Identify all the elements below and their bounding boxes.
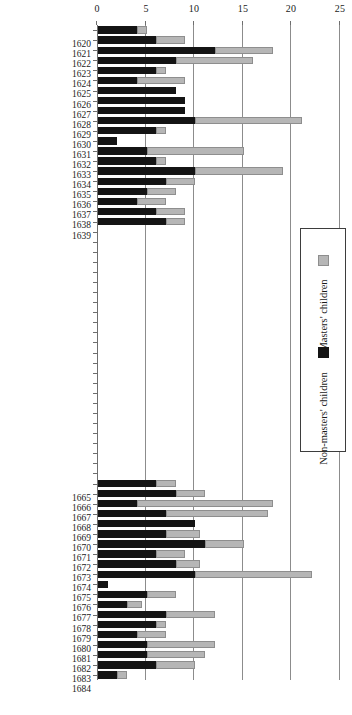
bar-group[interactable]: [98, 611, 341, 618]
bar-segment-non-masters-children[interactable]: [98, 530, 166, 537]
bar-segment-non-masters-children[interactable]: [98, 540, 205, 547]
bar-segment-non-masters-children[interactable]: [98, 550, 156, 557]
bar-group[interactable]: [98, 560, 341, 567]
bar-segment-masters-children[interactable]: [127, 601, 142, 608]
bar-group[interactable]: [98, 188, 341, 195]
bar-segment-non-masters-children[interactable]: [98, 490, 176, 497]
bar-segment-non-masters-children[interactable]: [98, 611, 166, 618]
bar-group[interactable]: [98, 198, 341, 205]
bar-group[interactable]: [98, 137, 341, 144]
bar-group[interactable]: [98, 97, 341, 104]
bar-group[interactable]: [98, 540, 341, 547]
bar-group[interactable]: [98, 651, 341, 658]
bar-segment-masters-children[interactable]: [195, 117, 302, 124]
bar-segment-masters-children[interactable]: [156, 621, 166, 628]
bar-group[interactable]: [98, 571, 341, 578]
bar-segment-non-masters-children[interactable]: [98, 661, 156, 668]
bar-group[interactable]: [98, 117, 341, 124]
bar-segment-masters-children[interactable]: [166, 510, 268, 517]
bar-segment-non-masters-children[interactable]: [98, 67, 156, 74]
bar-segment-non-masters-children[interactable]: [98, 560, 176, 567]
bar-group[interactable]: [98, 87, 341, 94]
bar-group[interactable]: [98, 631, 341, 638]
bar-segment-non-masters-children[interactable]: [98, 167, 195, 174]
bar-segment-non-masters-children[interactable]: [98, 47, 215, 54]
bar-group[interactable]: [98, 550, 341, 557]
bar-group[interactable]: [98, 661, 341, 668]
bar-segment-non-masters-children[interactable]: [98, 480, 156, 487]
bar-segment-masters-children[interactable]: [176, 560, 200, 567]
bar-segment-non-masters-children[interactable]: [98, 147, 147, 154]
bar-segment-masters-children[interactable]: [205, 540, 244, 547]
bar-group[interactable]: [98, 208, 341, 215]
bar-segment-masters-children[interactable]: [156, 67, 166, 74]
bar-group[interactable]: [98, 671, 341, 678]
bar-group[interactable]: [98, 601, 341, 608]
bar-segment-masters-children[interactable]: [195, 167, 282, 174]
bar-group[interactable]: [98, 591, 341, 598]
bar-segment-non-masters-children[interactable]: [98, 571, 195, 578]
bar-group[interactable]: [98, 127, 341, 134]
bar-group[interactable]: [98, 490, 341, 497]
bar-segment-masters-children[interactable]: [137, 77, 186, 84]
bar-segment-masters-children[interactable]: [147, 147, 244, 154]
bar-segment-non-masters-children[interactable]: [98, 601, 127, 608]
bar-segment-non-masters-children[interactable]: [98, 198, 137, 205]
bar-segment-non-masters-children[interactable]: [98, 500, 137, 507]
bar-segment-non-masters-children[interactable]: [98, 57, 176, 64]
bar-segment-non-masters-children[interactable]: [98, 127, 156, 134]
bar-segment-masters-children[interactable]: [215, 47, 273, 54]
bar-segment-masters-children[interactable]: [156, 550, 185, 557]
bar-segment-masters-children[interactable]: [166, 611, 215, 618]
bar-segment-non-masters-children[interactable]: [98, 36, 156, 43]
bar-segment-masters-children[interactable]: [117, 671, 127, 678]
bar-segment-non-masters-children[interactable]: [98, 591, 147, 598]
bar-group[interactable]: [98, 67, 341, 74]
bar-segment-non-masters-children[interactable]: [98, 87, 176, 94]
bar-group[interactable]: [98, 26, 341, 33]
bar-segment-masters-children[interactable]: [137, 631, 166, 638]
bar-group[interactable]: [98, 47, 341, 54]
bar-segment-non-masters-children[interactable]: [98, 188, 147, 195]
bar-segment-masters-children[interactable]: [156, 480, 175, 487]
bar-segment-masters-children[interactable]: [166, 178, 195, 185]
bar-segment-masters-children[interactable]: [166, 218, 185, 225]
bar-group[interactable]: [98, 520, 341, 527]
bar-segment-masters-children[interactable]: [176, 490, 205, 497]
bar-segment-non-masters-children[interactable]: [98, 218, 166, 225]
bar-segment-masters-children[interactable]: [147, 651, 205, 658]
bar-segment-masters-children[interactable]: [147, 641, 215, 648]
bar-segment-non-masters-children[interactable]: [98, 107, 185, 114]
legend-entry[interactable]: Non-masters' children: [301, 347, 345, 424]
bar-segment-masters-children[interactable]: [156, 208, 185, 215]
bar-segment-masters-children[interactable]: [156, 36, 185, 43]
bar-group[interactable]: [98, 147, 341, 154]
bar-segment-masters-children[interactable]: [137, 26, 147, 33]
bar-group[interactable]: [98, 57, 341, 64]
bar-group[interactable]: [98, 480, 341, 487]
bar-segment-non-masters-children[interactable]: [98, 26, 137, 33]
bar-group[interactable]: [98, 218, 341, 225]
bar-segment-masters-children[interactable]: [156, 127, 166, 134]
bar-segment-non-masters-children[interactable]: [98, 157, 156, 164]
bar-segment-non-masters-children[interactable]: [98, 520, 195, 527]
bar-segment-non-masters-children[interactable]: [98, 581, 108, 588]
bar-segment-masters-children[interactable]: [195, 571, 312, 578]
bar-segment-masters-children[interactable]: [166, 530, 200, 537]
bar-segment-non-masters-children[interactable]: [98, 97, 185, 104]
bar-segment-non-masters-children[interactable]: [98, 641, 147, 648]
legend-entry[interactable]: Masters' children: [301, 255, 345, 321]
bar-group[interactable]: [98, 530, 341, 537]
bar-segment-non-masters-children[interactable]: [98, 208, 156, 215]
bar-group[interactable]: [98, 621, 341, 628]
bar-segment-non-masters-children[interactable]: [98, 631, 137, 638]
bar-segment-masters-children[interactable]: [147, 188, 176, 195]
bar-group[interactable]: [98, 500, 341, 507]
bar-segment-non-masters-children[interactable]: [98, 621, 156, 628]
bar-segment-non-masters-children[interactable]: [98, 77, 137, 84]
bar-group[interactable]: [98, 641, 341, 648]
bar-segment-masters-children[interactable]: [147, 591, 176, 598]
bar-segment-masters-children[interactable]: [137, 500, 273, 507]
bar-group[interactable]: [98, 77, 341, 84]
bar-segment-non-masters-children[interactable]: [98, 671, 117, 678]
